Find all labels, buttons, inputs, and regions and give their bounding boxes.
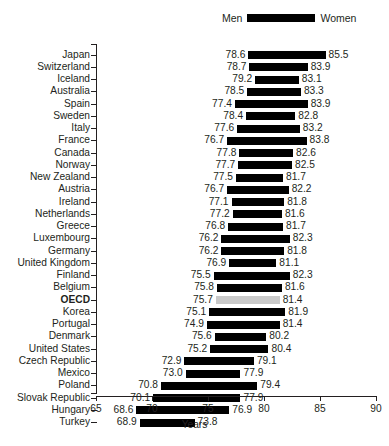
women-value-label: 76.9	[232, 404, 252, 416]
range-bar	[161, 382, 257, 390]
row-tick-mark	[91, 128, 97, 129]
women-value-label: 83.3	[304, 85, 324, 97]
row-tick-mark	[91, 226, 97, 227]
range-bar	[255, 76, 299, 84]
women-value-label: 80.4	[271, 343, 291, 355]
row-label-switzerland: Switzerland	[37, 61, 90, 73]
women-value-label: 82.8	[298, 110, 318, 122]
men-value-label: 78.5	[224, 85, 244, 97]
row-label-germany: Germany	[48, 245, 90, 257]
men-value-label: 76.7	[204, 134, 224, 146]
men-value-label: 77.8	[217, 147, 237, 159]
row-label-austria: Austria	[58, 183, 90, 195]
chart-row: Korea75.181.9	[0, 306, 389, 318]
row-label-new-zealand: New Zealand	[30, 171, 90, 183]
x-tick-label: 65	[90, 403, 101, 414]
men-value-label: 76.2	[199, 245, 219, 257]
range-bar	[236, 174, 283, 182]
women-value-label: 81.6	[285, 208, 305, 220]
chart-row: France76.783.8	[0, 135, 389, 147]
row-tick-mark	[91, 300, 97, 301]
chart-row: United Kingdom76.981.1	[0, 257, 389, 269]
men-value-label: 78.7	[227, 61, 247, 73]
row-label-portugal: Portugal	[52, 318, 90, 330]
men-value-label: 68.6	[114, 404, 134, 416]
row-label-poland: Poland	[58, 379, 90, 391]
range-bar	[227, 186, 289, 194]
chart-row: Germany76.281.8	[0, 245, 389, 257]
women-value-label: 83.2	[303, 122, 323, 134]
x-tick-label: 85	[314, 403, 325, 414]
chart-row: Canada77.882.6	[0, 147, 389, 159]
range-bar	[232, 198, 285, 206]
men-value-label: 76.2	[199, 232, 219, 244]
women-value-label: 82.6	[296, 147, 316, 159]
row-label-norway: Norway	[55, 159, 90, 171]
range-bar	[215, 333, 267, 341]
chart-row: OECD75.781.4	[0, 294, 389, 306]
row-tick-mark	[91, 177, 97, 178]
row-label-czech-republic: Czech Republic	[19, 355, 90, 367]
chart-row: Slovak Republic70.177.9	[0, 392, 389, 404]
women-value-label: 81.7	[286, 171, 306, 183]
women-value-label: 81.4	[283, 318, 303, 330]
row-tick-mark	[91, 349, 97, 350]
range-bar	[209, 308, 285, 316]
row-label-sweden: Sweden	[53, 110, 90, 122]
x-tick-mark	[208, 396, 209, 401]
range-bar	[210, 345, 268, 353]
row-tick-mark	[91, 324, 97, 325]
chart-row: Spain77.483.9	[0, 98, 389, 110]
men-value-label: 77.4	[212, 98, 232, 110]
x-tick-mark	[376, 396, 377, 401]
chart-row: Sweden78.482.8	[0, 110, 389, 122]
row-label-ireland: Ireland	[59, 196, 90, 208]
women-value-label: 81.1	[279, 257, 299, 269]
chart-row: Australia78.583.3	[0, 86, 389, 98]
chart-row: Finland75.582.3	[0, 270, 389, 282]
men-value-label: 76.9	[206, 257, 226, 269]
row-label-mexico: Mexico	[58, 367, 90, 379]
women-value-label: 83.8	[310, 134, 330, 146]
chart-row: New Zealand77.581.7	[0, 172, 389, 184]
men-value-label: 76.8	[205, 220, 225, 232]
legend-label-women: Women	[320, 12, 356, 24]
row-label-spain: Spain	[64, 98, 90, 110]
men-value-label: 73.0	[163, 367, 183, 379]
men-value-label: 77.1	[209, 196, 229, 208]
row-tick-mark	[91, 91, 97, 92]
chart-row: Poland70.879.4	[0, 380, 389, 392]
chart-row: Ireland77.181.8	[0, 196, 389, 208]
women-value-label: 83.9	[311, 98, 331, 110]
women-value-label: 82.3	[293, 269, 313, 281]
row-tick-mark	[91, 67, 97, 68]
row-tick-mark	[91, 373, 97, 374]
x-tick-mark	[264, 396, 265, 401]
men-value-label: 77.2	[210, 208, 230, 220]
x-axis-title: Years	[0, 419, 389, 430]
row-tick-mark	[91, 287, 97, 288]
row-tick-mark	[91, 104, 97, 105]
range-bar	[221, 235, 289, 243]
men-value-label: 77.7	[215, 159, 235, 171]
chart-row: Japan78.685.5	[0, 49, 389, 61]
men-value-label: 75.8	[194, 281, 214, 293]
chart-row: Mexico73.077.9	[0, 368, 389, 380]
row-tick-mark	[91, 116, 97, 117]
chart-row: Norway77.782.5	[0, 159, 389, 171]
x-tick-mark	[320, 396, 321, 401]
range-bar	[214, 272, 290, 280]
row-label-luxembourg: Luxembourg	[33, 232, 90, 244]
women-value-label: 83.1	[302, 73, 322, 85]
chart-row: Denmark75.680.2	[0, 331, 389, 343]
women-value-label: 81.6	[285, 281, 305, 293]
men-value-label: 70.8	[138, 379, 158, 391]
range-bar	[229, 259, 276, 267]
women-value-label: 77.9	[243, 392, 263, 404]
row-label-oecd: OECD	[61, 294, 90, 306]
range-bar	[237, 125, 300, 133]
women-value-label: 79.4	[260, 379, 280, 391]
chart-row: Greece76.881.7	[0, 221, 389, 233]
men-value-label: 70.1	[130, 392, 150, 404]
men-value-label: 79.2	[232, 73, 252, 85]
